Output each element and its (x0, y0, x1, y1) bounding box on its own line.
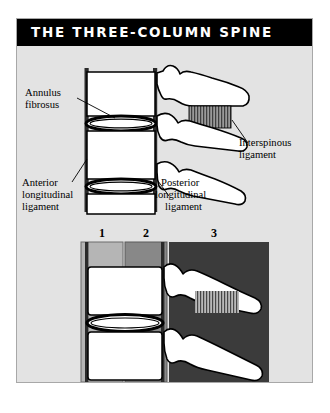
page-title: THE THREE-COLUMN SPINE (31, 24, 273, 40)
label-interspinous-ligament-line2: ligament (239, 149, 276, 160)
vertebral-body-upper (87, 72, 155, 116)
label-posterior-longitudinal-ligament-line2: longitudinal (155, 189, 206, 200)
posterior-element-upper (157, 66, 249, 106)
lower-three-column-illustration: 1 2 3 (81, 226, 269, 382)
label-posterior-longitudinal-ligament-line3: ligament (165, 201, 202, 212)
label-annulus-fibrosus-line2: fibrosus (25, 99, 59, 110)
figure-panel: THE THREE-COLUMN SPINE (16, 18, 313, 383)
annulus-fibrosus-inner-ring-lower-figure (91, 318, 159, 328)
column-number-1: 1 (99, 226, 105, 240)
vertebral-body-lower (87, 194, 155, 214)
column-number-2: 2 (143, 226, 149, 240)
label-posterior-longitudinal-ligament-line1: Posterior (161, 177, 200, 188)
vertebral-body-middle (87, 131, 155, 179)
diagram-art-area: Annulus fibrosus Anterior longitudinal l… (17, 46, 312, 382)
label-interspinous-ligament-line1: Interspinous (239, 137, 291, 148)
title-banner: THE THREE-COLUMN SPINE (17, 19, 312, 46)
vertebral-body-upper-lower-figure (88, 267, 162, 315)
interspinous-ligament-hatch-lower-figure (195, 291, 239, 313)
column-number-3: 3 (211, 226, 217, 240)
annulus-fibrosus-inner-ring-lower (90, 182, 152, 191)
label-anterior-longitudinal-ligament-line2: longitudinal (22, 189, 73, 200)
label-annulus-fibrosus-line1: Annulus (25, 87, 61, 98)
vertebral-body-lower-lower-figure (88, 332, 162, 380)
upper-spine-illustration: Annulus fibrosus Anterior longitudinal l… (22, 66, 291, 214)
annulus-fibrosus-inner-ring-upper (90, 119, 152, 128)
label-anterior-longitudinal-ligament-line3: ligament (22, 201, 59, 212)
figure-root: THE THREE-COLUMN SPINE (0, 0, 330, 413)
spine-diagram-svg: Annulus fibrosus Anterior longitudinal l… (17, 46, 312, 382)
label-anterior-longitudinal-ligament-line1: Anterior (22, 177, 58, 188)
